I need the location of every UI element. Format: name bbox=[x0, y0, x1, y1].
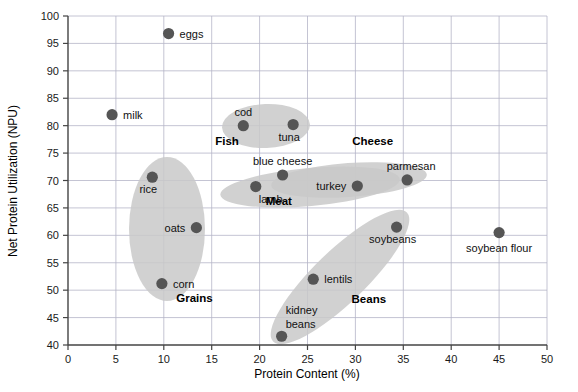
y-tick-label-40: 40 bbox=[47, 339, 59, 351]
x-tick-label-45: 45 bbox=[493, 353, 505, 365]
y-axis-title: Net Protein Utilization (NPU) bbox=[6, 105, 20, 257]
x-tick-label-25: 25 bbox=[301, 353, 313, 365]
chart-canvas: 05101520253035404550 4045505560657075808… bbox=[0, 0, 578, 392]
x-tick-label-20: 20 bbox=[253, 353, 265, 365]
y-tick-label-85: 85 bbox=[47, 92, 59, 104]
x-tick-label-30: 30 bbox=[349, 353, 361, 365]
data-point-marker bbox=[277, 169, 288, 180]
group-label-fish: Fish bbox=[215, 135, 239, 147]
data-point-marker bbox=[163, 28, 174, 39]
data-point-marker bbox=[391, 222, 402, 233]
y-tick-label-45: 45 bbox=[47, 312, 59, 324]
data-point-marker bbox=[238, 120, 249, 131]
data-point-label: turkey bbox=[316, 180, 346, 192]
data-point-marker bbox=[308, 274, 319, 285]
x-tick-label-40: 40 bbox=[445, 353, 457, 365]
data-point-marker bbox=[106, 109, 117, 120]
x-tick-label-5: 5 bbox=[113, 353, 119, 365]
data-point-marker bbox=[402, 174, 413, 185]
y-tick-label-100: 100 bbox=[41, 10, 59, 22]
x-axis-ticks bbox=[68, 345, 547, 350]
y-axis-ticks bbox=[63, 16, 68, 345]
data-point-marker bbox=[288, 119, 299, 130]
scatter-chart: 05101520253035404550 4045505560657075808… bbox=[0, 0, 578, 392]
group-label-cheese: Cheese bbox=[352, 135, 393, 147]
x-tick-label-0: 0 bbox=[65, 353, 71, 365]
group-label-grains: Grains bbox=[176, 292, 212, 304]
x-tick-labels: 05101520253035404550 bbox=[65, 353, 553, 365]
data-point-label: oats bbox=[165, 222, 186, 234]
data-point-marker bbox=[494, 227, 505, 238]
data-point-marker bbox=[156, 278, 167, 289]
y-tick-label-95: 95 bbox=[47, 37, 59, 49]
y-tick-labels: 404550556065707580859095100 bbox=[41, 10, 59, 351]
data-point-label: kidney bbox=[286, 304, 318, 316]
x-tick-label-10: 10 bbox=[158, 353, 170, 365]
data-point-label: corn bbox=[173, 278, 194, 290]
y-tick-label-55: 55 bbox=[47, 257, 59, 269]
data-point-label: tuna bbox=[278, 131, 300, 143]
data-point-label: beans bbox=[286, 318, 316, 330]
y-tick-label-65: 65 bbox=[47, 202, 59, 214]
x-tick-label-35: 35 bbox=[397, 353, 409, 365]
data-point-marker bbox=[191, 222, 202, 233]
data-point-label: lentils bbox=[324, 273, 353, 285]
data-point-marker bbox=[147, 172, 158, 183]
data-point-marker bbox=[276, 331, 287, 342]
data-point-label: parmesan bbox=[387, 160, 436, 172]
x-tick-label-15: 15 bbox=[206, 353, 218, 365]
y-tick-label-60: 60 bbox=[47, 229, 59, 241]
y-tick-label-70: 70 bbox=[47, 175, 59, 187]
x-tick-label-50: 50 bbox=[541, 353, 553, 365]
data-point-label: soybean flour bbox=[466, 242, 532, 254]
data-point-label: blue cheese bbox=[253, 155, 312, 167]
y-tick-label-80: 80 bbox=[47, 120, 59, 132]
data-point-marker bbox=[352, 180, 363, 191]
y-tick-label-90: 90 bbox=[47, 65, 59, 77]
data-point-label: cod bbox=[234, 106, 252, 118]
x-axis-title: Protein Content (%) bbox=[254, 367, 359, 381]
data-point-label: milk bbox=[123, 109, 143, 121]
y-tick-label-50: 50 bbox=[47, 284, 59, 296]
group-label-beans: Beans bbox=[352, 293, 387, 305]
group-label-meat: Meat bbox=[266, 195, 292, 207]
data-point-label: eggs bbox=[180, 28, 204, 40]
data-point-label: rice bbox=[139, 183, 157, 195]
data-point-label: soybeans bbox=[369, 233, 417, 245]
data-point-marker bbox=[250, 181, 261, 192]
y-tick-label-75: 75 bbox=[47, 147, 59, 159]
